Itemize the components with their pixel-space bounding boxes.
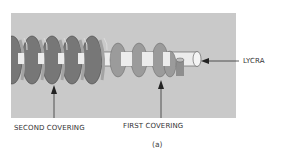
yarn-illustration — [0, 0, 283, 168]
first-covering-label: FIRST COVERING — [123, 122, 183, 130]
second-covering-label: SECOND COVERING — [14, 124, 85, 132]
second-covering-arrow — [51, 85, 57, 118]
first-covering-arrow — [158, 80, 164, 118]
second-covering-coils — [2, 36, 107, 84]
lycra-label: LYCRA — [243, 57, 265, 65]
figure-caption: (a) — [152, 140, 162, 149]
lycra-arrow — [201, 58, 236, 64]
